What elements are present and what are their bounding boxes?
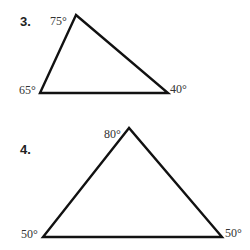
- problem-number: 4.: [20, 142, 31, 157]
- triangle-diagrams: 3. 75° 65° 40° 4. 80° 50° 50°: [0, 0, 250, 250]
- angle-bottom-right: 40°: [170, 82, 187, 96]
- angle-bottom-left: 50°: [21, 227, 38, 241]
- problem-4: 4. 80° 50° 50°: [20, 127, 242, 241]
- problem-number: 3.: [20, 14, 31, 29]
- angle-bottom-left: 65°: [19, 83, 36, 97]
- problem-3: 3. 75° 65° 40°: [19, 14, 187, 97]
- angle-top: 75°: [50, 14, 67, 28]
- triangle-4: [43, 128, 222, 237]
- angle-bottom-right: 50°: [225, 226, 242, 240]
- angle-top: 80°: [104, 127, 121, 141]
